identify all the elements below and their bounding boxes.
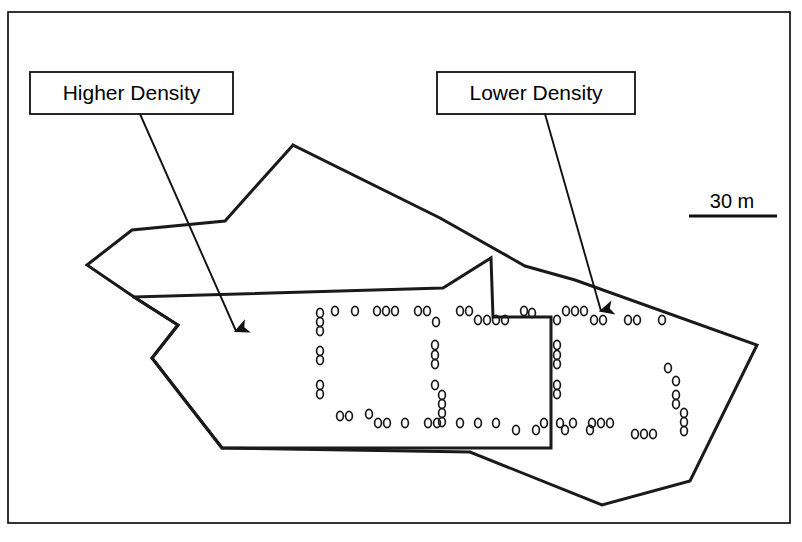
- feature-marker: [600, 315, 607, 324]
- feature-marker: [439, 399, 446, 408]
- feature-marker: [581, 306, 588, 315]
- feature-marker: [424, 306, 431, 315]
- feature-marker: [533, 425, 540, 434]
- leader-line-lower-density: [545, 114, 601, 311]
- feature-marker: [607, 418, 614, 427]
- feature-marker: [432, 350, 439, 359]
- feature-marker: [433, 317, 440, 326]
- feature-marker: [317, 346, 324, 355]
- callout-label-text: Higher Density: [63, 81, 201, 104]
- feature-marker: [625, 315, 632, 324]
- feature-marker: [554, 350, 561, 359]
- feature-marker: [591, 315, 598, 324]
- feature-marker: [374, 306, 381, 315]
- callout-higher-density[interactable]: Higher Density: [30, 72, 233, 114]
- feature-marker: [332, 306, 339, 315]
- callout-label-text: Lower Density: [469, 81, 603, 104]
- feature-marker: [632, 429, 639, 438]
- feature-marker: [563, 306, 570, 315]
- feature-marker: [673, 399, 680, 408]
- feature-marker: [570, 418, 577, 427]
- feature-marker: [432, 340, 439, 349]
- feature-marker: [346, 411, 353, 420]
- feature-marker: [317, 326, 324, 335]
- feature-marker: [439, 390, 446, 399]
- feature-marker: [650, 429, 657, 438]
- feature-marker: [366, 409, 373, 418]
- feature-marker: [484, 315, 491, 324]
- feature-marker: [554, 315, 561, 324]
- feature-marker: [317, 317, 324, 326]
- feature-marker: [673, 390, 680, 399]
- feature-marker: [457, 306, 464, 315]
- feature-marker: [383, 306, 390, 315]
- feature-marker: [681, 408, 688, 417]
- feature-marker: [317, 308, 324, 317]
- feature-markers: [317, 306, 688, 438]
- feature-marker: [432, 380, 439, 389]
- feature-marker: [475, 315, 482, 324]
- feature-marker: [475, 418, 482, 427]
- feature-marker: [415, 306, 422, 315]
- feature-marker: [572, 306, 579, 315]
- feature-marker: [681, 426, 688, 435]
- feature-marker: [337, 411, 344, 420]
- site-outer-boundary: [87, 145, 757, 505]
- feature-marker: [439, 408, 446, 417]
- feature-marker: [375, 418, 382, 427]
- feature-marker: [425, 418, 432, 427]
- feature-marker: [352, 306, 359, 315]
- feature-marker: [598, 418, 605, 427]
- feature-marker: [554, 380, 561, 389]
- feature-marker: [466, 306, 473, 315]
- feature-marker: [457, 418, 464, 427]
- map-canvas: Higher Density Lower Density 30 m: [0, 0, 802, 542]
- feature-marker: [402, 418, 409, 427]
- feature-marker: [541, 418, 548, 427]
- scale-bar: 30 m: [689, 190, 777, 216]
- feature-marker: [493, 418, 500, 427]
- feature-marker: [432, 359, 439, 368]
- feature-marker: [673, 376, 680, 385]
- feature-marker: [554, 340, 561, 349]
- feature-marker: [562, 425, 569, 434]
- density-map-figure: Higher Density Lower Density 30 m: [0, 0, 802, 542]
- callout-labels: Higher Density Lower Density: [30, 72, 635, 114]
- feature-marker: [392, 306, 399, 315]
- feature-marker: [317, 355, 324, 364]
- feature-marker: [554, 389, 561, 398]
- feature-marker: [665, 363, 672, 372]
- feature-marker: [554, 359, 561, 368]
- feature-marker: [513, 425, 520, 434]
- feature-marker: [681, 417, 688, 426]
- scale-bar-label: 30 m: [710, 190, 754, 212]
- feature-marker: [634, 315, 641, 324]
- feature-marker: [659, 315, 666, 324]
- feature-marker: [521, 306, 528, 315]
- callout-lower-density[interactable]: Lower Density: [437, 72, 635, 114]
- feature-marker: [317, 380, 324, 389]
- feature-marker: [641, 429, 648, 438]
- feature-marker: [384, 418, 391, 427]
- feature-marker: [317, 389, 324, 398]
